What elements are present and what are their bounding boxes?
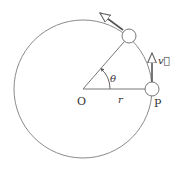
radius-label-r: r — [118, 94, 124, 105]
particle-at-P — [145, 82, 159, 96]
angle-label-theta: θ — [110, 73, 116, 84]
velocity-arrow-rotated — [100, 13, 123, 30]
radius-line-rotated — [83, 41, 125, 89]
angle-arc — [101, 69, 110, 89]
circular-motion-diagram: O r P θ v⃗ — [0, 0, 177, 170]
velocity-label-v: v⃗ — [158, 55, 170, 66]
point-label-P: P — [154, 97, 162, 110]
center-label-O: O — [77, 95, 86, 108]
particle-rotated — [122, 29, 136, 43]
